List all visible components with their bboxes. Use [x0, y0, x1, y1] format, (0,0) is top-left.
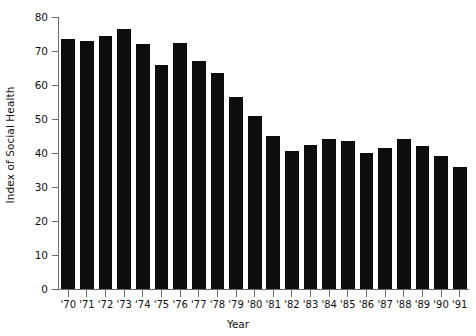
x-tick-label: '79	[228, 299, 243, 310]
x-tick-label: '80	[247, 299, 262, 310]
x-tick-label: '83	[303, 299, 318, 310]
bar-80	[248, 116, 262, 289]
x-tick-label: '70	[61, 299, 76, 310]
bar-78	[211, 73, 225, 289]
bar-82	[285, 151, 299, 289]
bar-77	[192, 61, 206, 289]
bar-76	[173, 43, 187, 290]
bar-87	[378, 148, 392, 289]
bar-chart: Index of Social Health 01020304050607080…	[0, 0, 476, 336]
x-tick-label: '71	[79, 299, 94, 310]
x-tick-label: '73	[116, 299, 131, 310]
bar-91	[453, 167, 467, 289]
x-tick-label: '77	[191, 299, 206, 310]
bar-86	[360, 153, 374, 289]
x-tick-label: '84	[321, 299, 336, 310]
x-tick-label: '75	[154, 299, 169, 310]
bar-89	[416, 146, 430, 289]
bar-75	[155, 65, 169, 289]
x-tick-label: '74	[135, 299, 150, 310]
bar-81	[266, 136, 280, 289]
plot-area	[59, 17, 469, 289]
x-tick-label: '72	[98, 299, 113, 310]
bar-90	[434, 156, 448, 289]
x-tick-label: '82	[284, 299, 299, 310]
x-tick-label: '81	[266, 299, 281, 310]
x-tick-label: '85	[340, 299, 355, 310]
bar-88	[397, 139, 411, 289]
x-tick-label: '88	[396, 299, 411, 310]
x-tick-label: '91	[452, 299, 467, 310]
x-tick-label: '76	[172, 299, 187, 310]
x-axis-title: Year	[0, 318, 476, 330]
x-tick-label: '78	[210, 299, 225, 310]
x-tick-label: '87	[377, 299, 392, 310]
bar-79	[229, 97, 243, 289]
x-tick-label: '89	[415, 299, 430, 310]
x-axis-tick-labels: '70'71'72'73'74'75'76'77'78'79'80'81'82'…	[59, 299, 469, 315]
bar-73	[117, 29, 131, 289]
bar-72	[99, 36, 113, 289]
x-tick-label: '86	[359, 299, 374, 310]
bar-85	[341, 141, 355, 289]
bar-74	[136, 44, 150, 289]
bar-70	[61, 39, 75, 289]
x-tick-label: '90	[433, 299, 448, 310]
bar-71	[80, 41, 94, 289]
bar-83	[304, 145, 318, 290]
bar-84	[322, 139, 336, 289]
